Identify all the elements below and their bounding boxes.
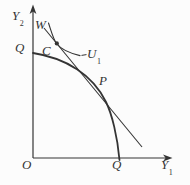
q-on-y-axis-label: Q [15,41,24,54]
economics-figure: Y2 W Q C U1 P O Q Y1 [0,0,190,185]
c-point-label: C [42,44,51,57]
y-axis-label: Y2 [12,9,23,26]
x-axis-label: Y1 [161,158,172,175]
production-possibility-frontier-curve [33,53,120,160]
indifference-curve-label: U1 [87,47,100,64]
w-label: W [35,18,46,31]
q-on-x-axis-label: Q [112,158,121,171]
indifference-curve-label-leader [82,55,87,56]
origin-label: O [22,158,31,171]
p-point-label: P [99,74,107,87]
consumption-point-dot [55,41,59,45]
